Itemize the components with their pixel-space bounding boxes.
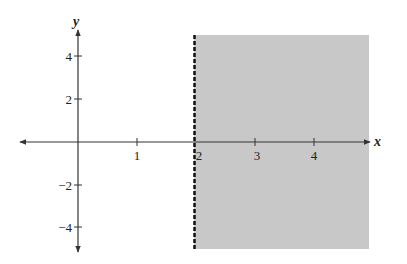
y-tick-label-neg4: −4 — [58, 220, 72, 235]
x-tick-label-3: 3 — [254, 148, 261, 163]
x-axis-label: x — [373, 134, 381, 149]
y-tick-label-4: 4 — [66, 49, 73, 64]
x-tick-label-1: 1 — [134, 148, 141, 163]
x-tick-label-4: 4 — [311, 148, 318, 163]
y-axis-label: y — [71, 14, 80, 29]
y-tick-label-neg2: −2 — [58, 178, 72, 193]
x-tick-label-2: 2 — [196, 148, 203, 163]
inequality-graph: 1 2 3 4 4 2 −2 −4 x y — [0, 0, 407, 264]
y-tick-label-2: 2 — [66, 92, 73, 107]
